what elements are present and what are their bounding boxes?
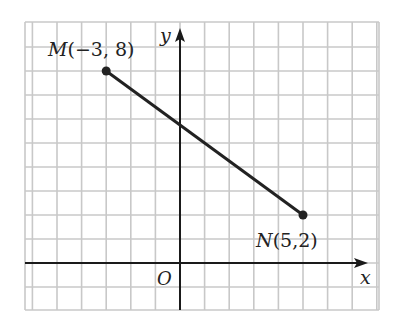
point-n-label: N(5,2) (255, 229, 318, 251)
point-m (102, 67, 111, 76)
point-m-name: M (47, 38, 68, 60)
point-n-coords: (5,2) (273, 229, 318, 251)
point-n-name: N (255, 229, 274, 251)
grid (25, 22, 379, 310)
coordinate-plane: x y O M(−3, 8) N(5,2) (0, 0, 404, 328)
point-m-label: M(−3, 8) (47, 38, 134, 60)
point-m-coords: (−3, 8) (67, 38, 134, 60)
x-axis-label: x (360, 266, 371, 288)
y-axis-label: y (159, 24, 171, 46)
point-n (299, 211, 308, 220)
origin-label: O (157, 268, 172, 289)
